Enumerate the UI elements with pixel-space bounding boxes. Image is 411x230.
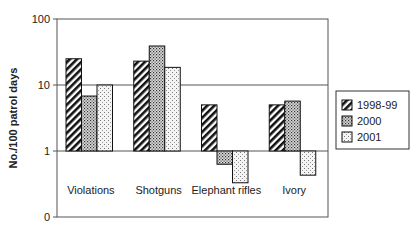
legend-swatch (342, 132, 352, 142)
y-tick-label: 10 (38, 79, 50, 91)
legend-label: 2001 (357, 131, 381, 143)
bar-2001-ivory (300, 151, 316, 175)
bar-1998-99-ivory (269, 105, 285, 151)
category-label: Elephant rifles (192, 184, 262, 196)
y-tick-label: 1 (44, 145, 50, 157)
category-label: Violations (67, 184, 115, 196)
bar-2000-elephant-rifles (217, 151, 233, 164)
y-tick-label: 100 (32, 13, 50, 25)
legend-swatch (342, 100, 352, 110)
legend: 1998-9920002001 (336, 91, 409, 149)
category-label: Ivory (282, 184, 306, 196)
bar-1998-99-elephant-rifles (202, 105, 218, 151)
bar-2000-shotguns (149, 46, 165, 151)
bar-2001-elephant-rifles (233, 151, 249, 183)
legend-swatch (342, 116, 352, 126)
bar-2001-violations (97, 85, 113, 151)
bar-1998-99-violations (66, 59, 82, 151)
y-axis-label: No./100 patrol days (7, 68, 19, 169)
bar-2000-violations (82, 96, 98, 151)
bar-chart: 0110100 ViolationsShotgunsElephant rifle… (0, 0, 411, 230)
legend-label: 2000 (357, 115, 381, 127)
bar-1998-99-shotguns (134, 61, 150, 151)
y-axis: 0110100 (32, 13, 57, 223)
bar-2000-ivory (285, 101, 301, 151)
category-label: Shotguns (135, 184, 182, 196)
legend-label: 1998-99 (357, 99, 397, 111)
y-tick-label: 0 (44, 211, 50, 223)
bar-2001-shotguns (165, 67, 181, 151)
